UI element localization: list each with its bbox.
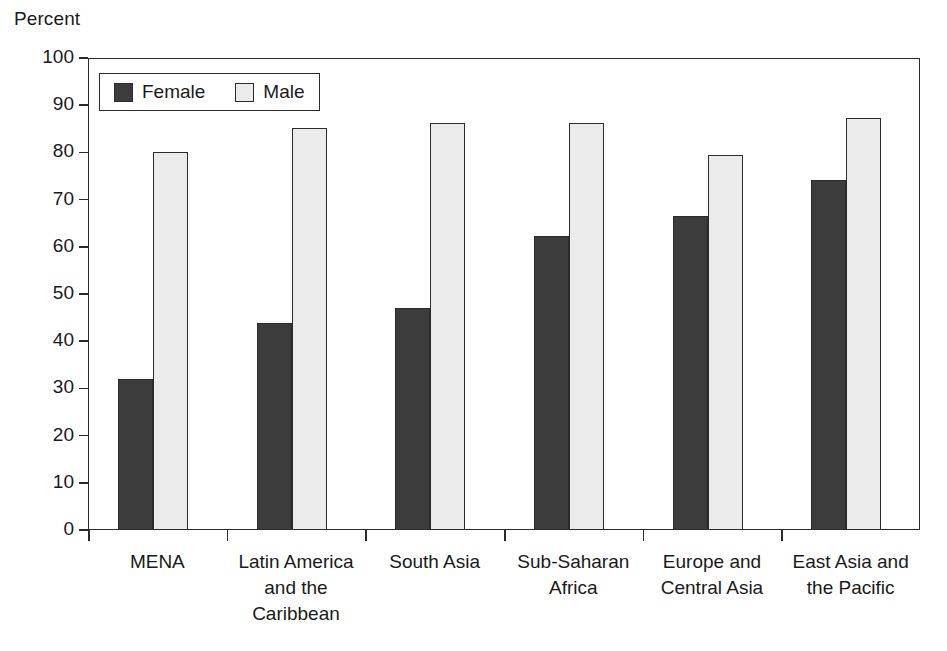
bar-female [118, 379, 153, 530]
legend-item-female: Female [114, 81, 205, 103]
bar-male [292, 128, 327, 530]
y-axis-tick-label: 20 [53, 423, 74, 447]
bar-chart-figure: Percent 0102030405060708090100 MENALatin… [0, 0, 947, 651]
plot-area [88, 58, 920, 530]
category-label-line: the Pacific [781, 575, 920, 601]
y-axis-tick-label: 90 [53, 92, 74, 116]
bar-male [708, 155, 743, 530]
bar-male [846, 118, 881, 530]
x-axis-tick-mark [88, 530, 90, 541]
y-axis-tick-mark [79, 246, 88, 248]
bar-female [534, 236, 569, 530]
y-axis-tick-label: 0 [63, 517, 74, 541]
x-axis-tick-mark [227, 530, 229, 541]
x-axis-category-label: Sub-SaharanAfrica [504, 549, 643, 601]
category-label-line: Sub-Saharan [504, 549, 643, 575]
category-label-line: MENA [88, 549, 227, 575]
category-label-line: and the [227, 575, 366, 601]
x-axis-tick-mark [365, 530, 367, 541]
y-axis-tick-mark [79, 529, 88, 531]
bar-female [811, 180, 846, 530]
category-label-line: Africa [504, 575, 643, 601]
x-axis-category-label: South Asia [365, 549, 504, 575]
legend-item-label: Female [142, 81, 205, 103]
bar-female [395, 308, 430, 530]
x-axis-category-label: Latin Americaand theCaribbean [227, 549, 366, 627]
category-label-line: East Asia and [781, 549, 920, 575]
y-axis-tick-label: 40 [53, 328, 74, 352]
y-axis-tick-label: 10 [53, 470, 74, 494]
bar-male [153, 152, 188, 530]
legend-item-male: Male [235, 81, 304, 103]
x-axis-tick-mark [643, 530, 645, 541]
x-axis-category-label: MENA [88, 549, 227, 575]
bar-male [430, 123, 465, 530]
y-axis-tick-mark [79, 388, 88, 390]
y-axis-tick-mark [79, 57, 88, 59]
y-axis-tick-label: 100 [42, 45, 74, 69]
category-label-line: Europe and [643, 549, 782, 575]
legend-item-label: Male [263, 81, 304, 103]
category-label-line: Central Asia [643, 575, 782, 601]
y-axis-tick-mark [79, 340, 88, 342]
y-axis-tick-mark [79, 104, 88, 106]
category-label-line: South Asia [365, 549, 504, 575]
x-axis-category-label: Europe andCentral Asia [643, 549, 782, 601]
y-axis-tick-label: 60 [53, 234, 74, 258]
category-label-line: Latin America [227, 549, 366, 575]
x-axis-tick-mark [504, 530, 506, 541]
x-axis-category-label: East Asia andthe Pacific [781, 549, 920, 601]
category-label-line: Caribbean [227, 601, 366, 627]
y-axis-tick-mark [79, 199, 88, 201]
y-axis-tick-label: 30 [53, 375, 74, 399]
female-swatch-icon [114, 83, 133, 102]
bar-male [569, 123, 604, 530]
y-axis-tick-label: 70 [53, 187, 74, 211]
y-axis-tick-mark [79, 482, 88, 484]
y-axis-tick-mark [79, 293, 88, 295]
x-axis-tick-mark [781, 530, 783, 541]
chart-legend: FemaleMale [99, 73, 320, 111]
y-axis-tick-label: 80 [53, 139, 74, 163]
male-swatch-icon [235, 83, 254, 102]
y-axis-tick-label: 50 [53, 281, 74, 305]
bar-female [257, 323, 292, 530]
bar-female [673, 216, 708, 530]
y-axis-title: Percent [14, 8, 80, 30]
y-axis-tick-mark [79, 435, 88, 437]
y-axis-tick-mark [79, 152, 88, 154]
